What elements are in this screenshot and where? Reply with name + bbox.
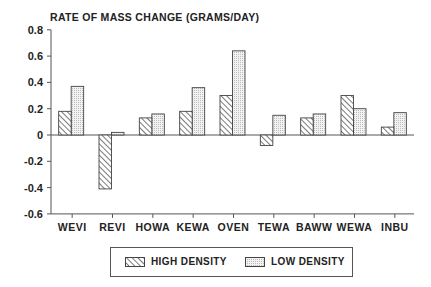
legend-item-high-density: HIGH DENSITY	[125, 256, 227, 267]
x-tick-label: WEVI	[58, 221, 87, 233]
y-axis: 0.80.60.40.20-0.2-0.4-0.6	[24, 24, 51, 220]
x-tick-label: INBU	[381, 221, 409, 233]
x-tick-label: HOWA	[135, 221, 170, 233]
x-tick-label: KEWA	[176, 221, 210, 233]
bar-low-density	[313, 114, 326, 135]
bar-low-density	[273, 115, 286, 135]
legend-label-low: LOW DENSITY	[271, 256, 345, 267]
bar-low-density	[71, 86, 84, 135]
bar-high-density	[260, 135, 273, 146]
bar-low-density	[152, 114, 165, 135]
legend: HIGH DENSITY LOW DENSITY	[110, 247, 353, 277]
bar-chart: 0.80.60.40.20-0.2-0.4-0.6 WEVIREVIHOWAKE…	[0, 0, 431, 245]
y-tick-label: -0.2	[24, 155, 43, 167]
bars	[59, 51, 407, 189]
x-tick-label: TEWA	[258, 221, 290, 233]
y-tick-label: 0	[37, 129, 43, 141]
bar-high-density	[381, 127, 394, 135]
hatch-swatch-icon	[125, 257, 145, 267]
bar-low-density	[192, 88, 205, 135]
y-tick-label: 0.8	[28, 24, 43, 36]
bar-low-density	[112, 132, 125, 135]
bar-high-density	[301, 118, 314, 135]
bar-high-density	[59, 111, 72, 135]
legend-label-high: HIGH DENSITY	[151, 256, 227, 267]
bar-high-density	[99, 135, 112, 189]
bar-high-density	[220, 96, 233, 135]
bar-low-density	[394, 113, 407, 135]
bar-low-density	[354, 109, 367, 135]
x-tick-label: BAWW	[296, 221, 332, 233]
y-tick-label: -0.4	[24, 182, 44, 194]
y-tick-label: 0.4	[28, 76, 44, 88]
bar-low-density	[233, 51, 246, 135]
bar-high-density	[341, 96, 354, 135]
y-tick-label: 0.6	[28, 50, 43, 62]
stipple-swatch-icon	[245, 257, 265, 267]
x-tick-label: OVEN	[218, 221, 250, 233]
legend-item-low-density: LOW DENSITY	[245, 256, 345, 267]
bar-high-density	[139, 118, 152, 135]
bar-high-density	[180, 111, 193, 135]
y-tick-label: -0.6	[24, 208, 43, 220]
x-tick-label: WEWA	[337, 221, 373, 233]
x-tick-label: REVI	[99, 221, 126, 233]
y-tick-label: 0.2	[28, 103, 43, 115]
